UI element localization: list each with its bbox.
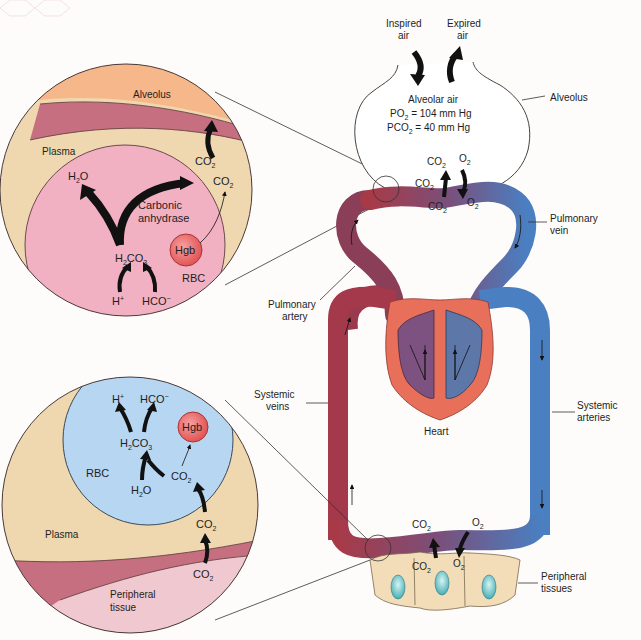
peripheral-tissues-label-2: tissues bbox=[541, 583, 572, 594]
plasma-label: Plasma bbox=[42, 146, 76, 157]
peripheral-tissue-label-2: tissue bbox=[110, 602, 137, 613]
gas-exchange-diagram: Alveolus CO2 Plasma H2O CO2 Carbonic anh… bbox=[0, 0, 641, 640]
background-pattern bbox=[0, 0, 70, 16]
alveolus-label: Alveolus bbox=[133, 89, 171, 100]
bottom-h2co3-label: H2CO3 bbox=[120, 437, 152, 451]
diagram-canvas: Alveolus CO2 Plasma H2O CO2 Carbonic anh… bbox=[0, 0, 641, 640]
enzyme-label: Carbonic bbox=[138, 199, 183, 211]
co2-systemic-vessel-label: CO2 bbox=[412, 519, 431, 532]
h2co3-label: H2CO3 bbox=[115, 252, 147, 266]
inspired-air-label: Inspired bbox=[386, 18, 422, 29]
systemic-arteries-label-2: arteries bbox=[577, 412, 610, 423]
hgb-label: Hgb bbox=[175, 244, 195, 256]
systemic-arteries-label: Systemic bbox=[577, 400, 618, 411]
bottom-plasma-label: Plasma bbox=[45, 529, 79, 540]
pulmonary-vein-label: Pulmonary bbox=[550, 213, 598, 224]
enzyme-label-2: anhydrase bbox=[138, 212, 189, 224]
pulmonary-vein-label-2: vein bbox=[550, 225, 568, 236]
bottom-rbc-label: RBC bbox=[86, 467, 109, 479]
systemic-veins-label-2: veins bbox=[266, 401, 289, 412]
bottom-hgb-label: Hgb bbox=[182, 421, 202, 433]
pulmonary-artery-label-2: artery bbox=[282, 311, 308, 322]
alveolus-lung: Alveolus Inspired air Expired air Alveol… bbox=[355, 18, 588, 195]
alveolar-air-label: Alveolar air bbox=[408, 94, 459, 105]
peripheral-tissue-label: Peripheral bbox=[110, 589, 156, 600]
heart: Heart bbox=[386, 299, 493, 437]
expired-air-label: Expired bbox=[447, 18, 481, 29]
alveolus-side-label: Alveolus bbox=[550, 92, 588, 103]
rbc-label: RBC bbox=[182, 272, 205, 284]
bottom-magnified-circle: H+ HCO− Hgb H2CO3 RBC H2O CO2 CO2 Plasma… bbox=[0, 355, 260, 640]
hco3-label: HCO− bbox=[142, 295, 171, 307]
systemic-veins-label: Systemic bbox=[254, 389, 295, 400]
peripheral-tissues-label: Peripheral bbox=[541, 571, 587, 582]
inspired-air-label-2: air bbox=[398, 30, 410, 41]
o2-systemic-vessel-label: O2 bbox=[472, 517, 484, 530]
heart-label: Heart bbox=[424, 426, 449, 437]
expired-air-label-2: air bbox=[457, 30, 469, 41]
pulmonary-artery-label: Pulmonary bbox=[268, 299, 316, 310]
